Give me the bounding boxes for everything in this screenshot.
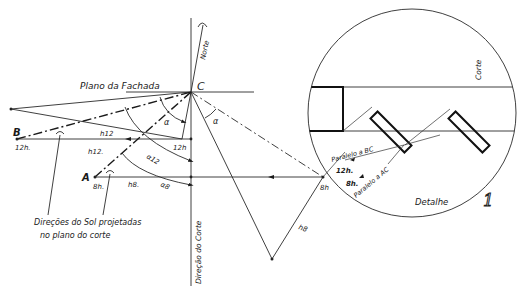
alpha12-label: α12	[145, 153, 161, 167]
arrow-8h-detail	[359, 174, 364, 178]
sun-directions-label-2: no plano do corte	[40, 231, 110, 240]
wall-section	[305, 87, 343, 131]
time-12h-center-label: 12h	[173, 144, 186, 152]
shadow-line-3	[404, 135, 440, 145]
point-b-label: B	[13, 127, 21, 138]
section-label: Corte	[474, 59, 483, 80]
pointer-line-2	[103, 174, 110, 215]
h12-line	[11, 109, 182, 139]
north-label: Norte	[199, 40, 211, 61]
point-bottom-dot	[271, 258, 274, 261]
detail-label: Detalhe	[415, 197, 448, 207]
detail-8h-label: 8h.	[346, 180, 359, 188]
arrow-12h	[125, 137, 131, 141]
b-time-label: 12h.	[15, 144, 31, 152]
facade-plane-label: Plano da Fachada	[80, 81, 160, 91]
h8-line-right	[272, 177, 323, 259]
a-time-label: 8h.	[93, 183, 104, 191]
arrow-8h	[268, 175, 274, 179]
point-a-label: A	[81, 172, 90, 183]
line-c-to-8h	[191, 92, 323, 177]
shadow-line-1	[343, 107, 372, 131]
pointer-line-1	[48, 135, 60, 215]
arc-alpha12	[125, 107, 191, 161]
cut-direction-label: Direção do Corte	[194, 220, 203, 284]
line-c-to-bottom	[191, 92, 272, 259]
tick-12h	[190, 138, 193, 141]
detail-12h-label: 12h.	[336, 167, 353, 175]
h12-upper-label: h12	[100, 130, 114, 138]
alpha-right-label: α	[213, 117, 219, 126]
time-8h-right-label: 8h	[320, 184, 329, 192]
louver-1	[370, 111, 411, 152]
parallel-ac-line	[388, 145, 404, 164]
alpha8-label: α8	[159, 181, 171, 192]
line-12h-to-c	[182, 92, 191, 139]
figure-number: 1	[483, 190, 494, 210]
sun-directions-label-1: Direções do Sol projetadas	[34, 218, 141, 227]
h8-label: h8.	[128, 181, 139, 189]
h8-right-label: h8	[297, 223, 309, 234]
h12-lower-label: h12.	[88, 148, 104, 156]
sun-arrow-icon-2	[106, 171, 114, 174]
alpha-label: α	[164, 118, 170, 127]
detail-circle: Corte Paralelo a BC 12h. 8h. Paralelo a …	[300, 9, 520, 217]
point-c-label: C	[197, 80, 205, 93]
louver-2	[448, 111, 489, 152]
detail-boundary	[308, 9, 516, 217]
sun-arrow-icon-1	[56, 132, 64, 135]
solar-geometry-diagram: Plano da Fachada C Norte B 12h. h12 h12.…	[0, 0, 526, 295]
shadow-line-2	[405, 109, 450, 145]
tick-8h	[190, 176, 193, 179]
